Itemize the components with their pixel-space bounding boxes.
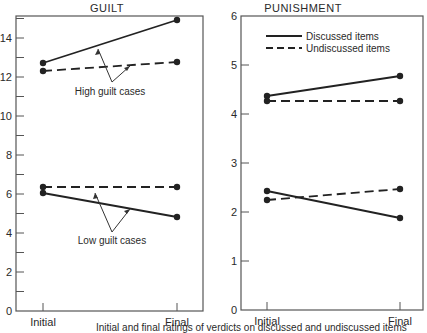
guilt-high-undiscussed-line <box>43 62 177 71</box>
svg-text:14: 14 <box>0 32 12 44</box>
figure: GUILT 0 2 4 6 8 10 <box>0 0 427 333</box>
svg-text:12: 12 <box>0 71 12 83</box>
svg-text:0: 0 <box>231 304 237 316</box>
punishment-lines <box>267 76 400 218</box>
guilt-panel: GUILT 0 2 4 6 8 10 <box>0 2 203 328</box>
legend: Discussed items Undiscussed items <box>266 31 390 54</box>
guilt-high-discussed-line <box>43 20 177 63</box>
punishment-axes-frame <box>241 16 423 310</box>
svg-text:0: 0 <box>6 305 12 317</box>
punishment-panel: PUNISHMENT 0 1 2 3 4 5 6 Initial Final D… <box>231 2 423 327</box>
guilt-lines <box>43 20 177 217</box>
svg-text:4: 4 <box>6 227 12 239</box>
svg-text:5: 5 <box>231 59 237 71</box>
svg-text:8: 8 <box>6 149 12 161</box>
svg-text:1: 1 <box>231 255 237 267</box>
punishment-y-labels: 0 1 2 3 4 5 6 <box>231 10 237 316</box>
svg-text:2: 2 <box>231 206 237 218</box>
punishment-high-discussed-line <box>267 76 400 96</box>
svg-text:3: 3 <box>231 157 237 169</box>
svg-text:6: 6 <box>6 188 12 200</box>
legend-discussed-label: Discussed items <box>306 31 379 42</box>
guilt-low-discussed-line <box>43 193 177 217</box>
guilt-points <box>40 17 180 220</box>
punishment-title: PUNISHMENT <box>264 2 342 14</box>
high-guilt-annotation: High guilt cases <box>75 86 146 97</box>
punishment-low-discussed-line <box>267 191 400 218</box>
svg-text:6: 6 <box>231 10 237 22</box>
svg-text:4: 4 <box>231 108 237 120</box>
guilt-x-initial: Initial <box>30 316 56 328</box>
legend-undiscussed-label: Undiscussed items <box>306 43 390 54</box>
guilt-y-labels: 0 2 4 6 8 10 12 14 <box>0 32 12 317</box>
low-guilt-annotation: Low guilt cases <box>78 235 146 246</box>
figure-caption: Initial and final ratings of verdicts on… <box>96 322 407 333</box>
svg-text:10: 10 <box>0 110 12 122</box>
svg-text:2: 2 <box>6 266 12 278</box>
arrow-heads <box>93 49 130 214</box>
guilt-title: GUILT <box>90 2 124 14</box>
